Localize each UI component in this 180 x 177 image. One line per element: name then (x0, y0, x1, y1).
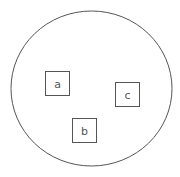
element-b: b (73, 119, 97, 143)
element-label-c: c (124, 89, 130, 102)
element-label-b: b (81, 125, 88, 138)
venn-diagram: a b c (0, 0, 180, 177)
element-c: c (116, 83, 140, 107)
element-label-a: a (54, 78, 61, 91)
element-a: a (46, 72, 70, 96)
